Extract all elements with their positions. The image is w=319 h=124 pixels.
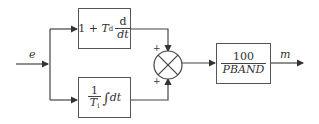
input-label: e — [29, 48, 36, 61]
gain-block: 100 PBAND — [216, 43, 271, 84]
derivative-var: T — [101, 22, 108, 35]
integral-fraction: 1 Ti — [88, 85, 102, 111]
gain-den: PBAND — [221, 63, 267, 76]
derivative-to-sum-arrow — [131, 29, 168, 51]
gain-fraction: 100 PBAND — [221, 51, 267, 75]
derivative-block: 1 + Td d dt — [78, 8, 131, 49]
integral-sub: i — [97, 102, 99, 110]
integral-tail: dt — [110, 91, 121, 104]
derivative-fraction: d dt — [115, 16, 130, 40]
derivative-lead: 1 + — [78, 22, 101, 35]
derivative-den: dt — [115, 28, 130, 41]
derivative-sub: d — [109, 25, 113, 33]
derivative-num: d — [118, 16, 129, 28]
summing-junction — [154, 51, 182, 79]
diagram-wires — [0, 0, 319, 124]
integral-block: 1 Ti ∫ dt — [78, 77, 131, 118]
integral-num: 1 — [89, 85, 100, 97]
integral-sign: ∫ — [102, 90, 109, 106]
integral-to-sum-arrow — [131, 79, 168, 100]
gain-num: 100 — [231, 51, 256, 63]
sum-sign-bottom: + — [153, 76, 161, 86]
integral-den: Ti — [88, 96, 102, 110]
output-label: m — [280, 48, 290, 61]
sum-sign-top: + — [153, 43, 161, 53]
